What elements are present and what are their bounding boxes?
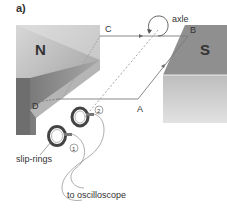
south-pole-label: S: [200, 41, 210, 58]
slip-rings-label: slip-rings: [16, 154, 53, 164]
generator-diagram: a) N S C B A D axle slip-rings 1 2 to os…: [0, 0, 227, 216]
north-pole-label: N: [35, 41, 46, 58]
corner-a-label: A: [137, 104, 143, 114]
corner-b-label: B: [190, 25, 196, 35]
axle-label: axle: [172, 14, 189, 24]
diagram-canvas: a) N S C B A D axle slip-rings 1 2 to os…: [0, 0, 227, 216]
panel-label: a): [16, 2, 26, 14]
south-magnet: [163, 25, 227, 123]
current-arrow-icon: [139, 34, 143, 38]
corner-c-label: C: [105, 24, 112, 34]
corner-d-label: D: [32, 101, 39, 111]
slip-ring-1: [49, 127, 73, 146]
oscilloscope-label: to oscilloscope: [67, 190, 126, 200]
rotation-arrow-icon: [147, 16, 168, 36]
